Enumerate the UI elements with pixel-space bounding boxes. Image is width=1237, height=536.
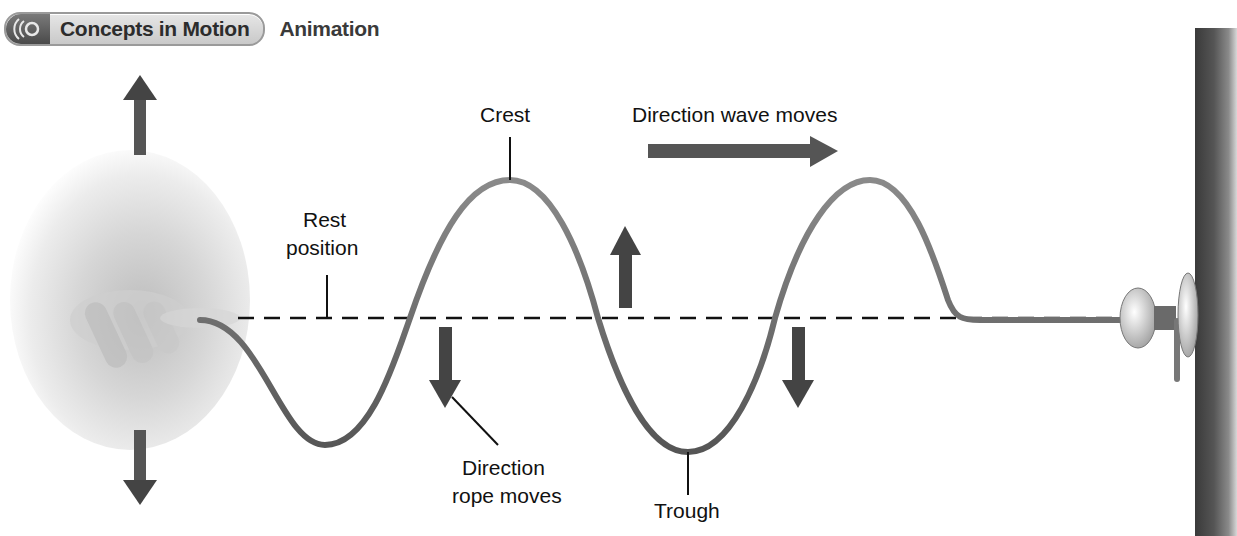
crest-label: Crest xyxy=(480,102,530,128)
trough-label: Trough xyxy=(654,498,720,524)
rope-direction-label-line2: rope moves xyxy=(452,483,562,509)
rope-down-arrow-icon xyxy=(782,327,814,408)
hand-down-arrow-icon xyxy=(123,430,157,505)
rest-position-label-line2: position xyxy=(286,235,358,261)
rope-up-arrow-icon xyxy=(610,226,641,308)
wave-direction-label: Direction wave moves xyxy=(632,102,837,128)
rope-down-arrow-icon xyxy=(429,327,461,408)
doorknob-icon xyxy=(1120,273,1198,382)
hand-up-arrow-icon xyxy=(123,75,157,155)
hand-icon xyxy=(70,290,240,371)
rest-position-label-line1: Rest xyxy=(303,207,346,233)
wave-diagram xyxy=(0,0,1237,536)
wave-direction-arrow-icon xyxy=(648,136,838,167)
rope-direction-label-line1: Direction xyxy=(462,455,545,481)
